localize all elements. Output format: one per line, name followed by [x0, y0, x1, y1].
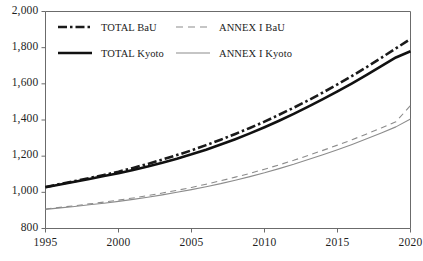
legend-item-total-bau: TOTAL BaU — [58, 22, 176, 33]
y-axis-tick-label: 1,400 — [0, 112, 39, 124]
line-chart: 8001,0001,2001,4001,6001,8002,000 199520… — [0, 0, 423, 261]
legend-item-annex-i-bau: ANNEX I BaU — [176, 22, 285, 33]
x-axis-tick-label: 2005 — [167, 236, 217, 248]
legend-swatch-annex-i-kyoto-icon — [176, 48, 210, 58]
legend-swatch-total-kyoto-icon — [58, 48, 92, 58]
legend-label-annex-i-bau: ANNEX I BaU — [219, 22, 285, 33]
legend-item-annex-i-kyoto: ANNEX I Kyoto — [176, 48, 292, 59]
y-axis-tick-label: 1,600 — [0, 76, 39, 88]
legend-label-total-kyoto: TOTAL Kyoto — [101, 48, 164, 59]
x-axis-tick-label: 2020 — [386, 236, 423, 248]
chart-legend: TOTAL BaU ANNEX I BaU TOTAL Kyoto ANN — [58, 14, 318, 66]
x-axis-tick-label: 2000 — [94, 236, 144, 248]
legend-label-total-bau: TOTAL BaU — [101, 22, 157, 33]
legend-swatch-annex-i-bau-icon — [176, 22, 210, 32]
y-axis-tick-label: 1,200 — [0, 148, 39, 160]
y-axis-tick-label: 1,800 — [0, 40, 39, 52]
series-line-total-kyoto — [46, 51, 411, 187]
x-axis-tick-label: 2010 — [240, 236, 290, 248]
series-line-annex-i-kyoto — [46, 119, 411, 209]
legend-row: TOTAL BaU ANNEX I BaU — [58, 14, 318, 40]
legend-swatch-total-bau-icon — [58, 22, 92, 32]
x-axis-tick-label: 1995 — [21, 236, 71, 248]
legend-label-annex-i-kyoto: ANNEX I Kyoto — [219, 48, 292, 59]
x-axis-tick-label: 2015 — [313, 236, 363, 248]
y-axis-tick-label: 1,000 — [0, 184, 39, 196]
y-axis-tick-label: 800 — [0, 221, 39, 233]
series-line-annex-i-bau — [46, 106, 411, 209]
legend-row: TOTAL Kyoto ANNEX I Kyoto — [58, 40, 318, 66]
legend-item-total-kyoto: TOTAL Kyoto — [58, 48, 176, 59]
y-axis-tick-label: 2,000 — [0, 4, 39, 16]
